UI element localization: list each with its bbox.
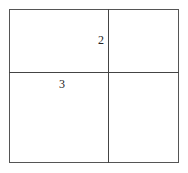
grid-vertical-divider — [108, 9, 109, 163]
grid-horizontal-divider — [9, 72, 179, 73]
grid-outer-border — [9, 9, 179, 163]
cell-label-2: 2 — [98, 34, 104, 46]
cell-label-3: 3 — [59, 78, 65, 90]
